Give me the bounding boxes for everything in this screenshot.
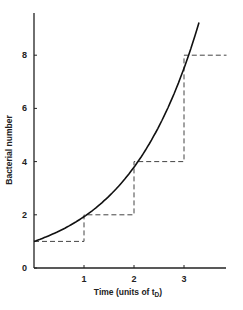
y-tick-label: 8 — [22, 50, 27, 60]
y-axis-label: Bacterial number — [4, 115, 14, 185]
x-axis-label: Time (units of tD) — [94, 287, 162, 298]
exponential-curve — [34, 23, 199, 242]
tick-labels: 12302468 — [22, 50, 187, 284]
y-tick-label: 4 — [22, 157, 27, 167]
x-tick-label: 2 — [131, 274, 136, 284]
growth-chart: 12302468 Bacterial number Time (units of… — [0, 0, 243, 310]
y-tick-label: 2 — [22, 210, 27, 220]
step-series — [34, 55, 227, 241]
x-tick-label: 1 — [81, 274, 86, 284]
y-tick-label: 6 — [22, 103, 27, 113]
y-tick-label: 0 — [22, 263, 27, 273]
x-tick-label: 3 — [181, 274, 186, 284]
ticks — [34, 55, 184, 268]
